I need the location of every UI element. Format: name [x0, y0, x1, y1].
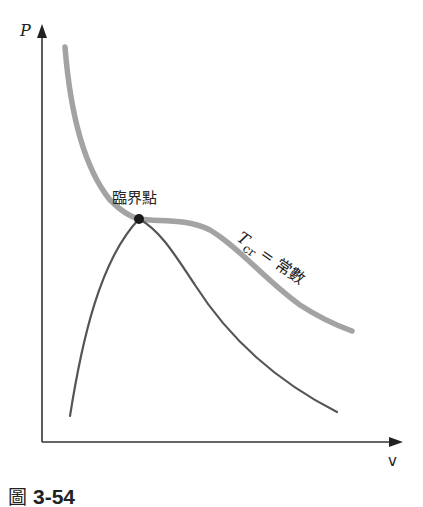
y-axis-arrow-icon	[37, 24, 47, 38]
isotherm-label-rest: = 常數	[253, 241, 309, 288]
figure-caption: 圖3-54	[8, 482, 75, 507]
x-axis-arrow-icon	[389, 437, 403, 447]
axes: P v	[19, 21, 403, 470]
saturated-liquid-line	[70, 219, 139, 416]
caption-prefix: 圖	[8, 482, 27, 507]
pv-diagram: P v 臨界點 Tcr = 常數	[0, 0, 423, 507]
critical-point-marker	[134, 214, 144, 224]
y-axis-label: P	[19, 21, 31, 40]
x-axis-label: v	[388, 452, 397, 470]
critical-point-label: 臨界點	[112, 189, 157, 207]
critical-isotherm-curve	[65, 47, 352, 331]
caption-number: 3-54	[33, 485, 75, 507]
